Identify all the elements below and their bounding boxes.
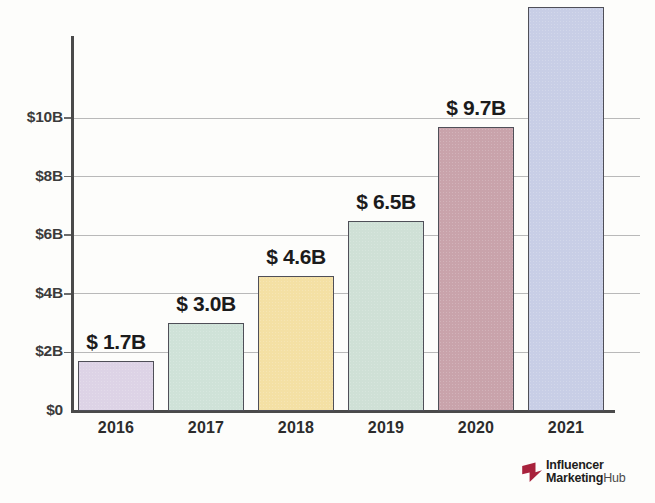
bar-2017[interactable] xyxy=(168,323,244,411)
y-axis-tick-label: $0 xyxy=(3,401,63,419)
bar-2016[interactable] xyxy=(78,361,154,411)
logo-word-hub: Hub xyxy=(603,471,625,485)
bar-2020[interactable] xyxy=(438,127,514,411)
x-axis-tick-label-2018: 2018 xyxy=(258,419,334,437)
logo-wordmark: Influencer MarketingHub xyxy=(546,459,626,485)
logo-word-marketing: Marketing xyxy=(546,471,603,485)
y-axis-tick-label: $8B xyxy=(3,167,63,185)
bar-value-label-2016: $ 1.7B xyxy=(58,330,174,354)
influencer-marketing-hub-arrow-icon xyxy=(521,460,543,484)
bar-value-label-2020: $ 9.7B xyxy=(418,96,534,120)
bar-2021[interactable] xyxy=(528,7,604,411)
x-axis-tick-label-2021: 2021 xyxy=(528,419,604,437)
x-axis-tick-label-2019: 2019 xyxy=(348,419,424,437)
bar-value-label-2019: $ 6.5B xyxy=(328,190,444,214)
x-axis-tick-label-2016: 2016 xyxy=(78,419,154,437)
bar-2018[interactable] xyxy=(258,276,334,411)
y-axis-tick-label: $2B xyxy=(3,342,63,360)
influencer-marketing-hub-logo: Influencer MarketingHub xyxy=(521,459,626,485)
y-axis-tick-label: $4B xyxy=(3,284,63,302)
logo-line-marketinghub: MarketingHub xyxy=(546,472,626,485)
bar-value-label-2017: $ 3.0B xyxy=(148,292,264,316)
y-axis-line xyxy=(71,36,74,412)
bar-2019[interactable] xyxy=(348,221,424,411)
x-axis-tick-label-2017: 2017 xyxy=(168,419,244,437)
y-axis-tick-label: $6B xyxy=(3,225,63,243)
bar-chart: $0$2B$4B$6B$8B$10B $ 1.7B2016$ 3.0B2017$… xyxy=(0,0,655,503)
y-axis-tick-label: $10B xyxy=(3,108,63,126)
x-axis-tick-label-2020: 2020 xyxy=(438,419,514,437)
bar-value-label-2018: $ 4.6B xyxy=(238,245,354,269)
chart-page: $0$2B$4B$6B$8B$10B $ 1.7B2016$ 3.0B2017$… xyxy=(0,0,655,503)
